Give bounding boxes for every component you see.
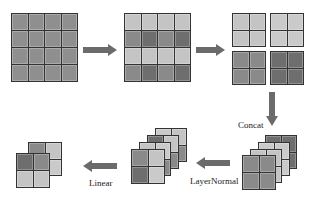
subgrid-top-right [270,13,304,47]
grid-cell [125,48,141,64]
grid-cell [243,173,259,189]
grid-cell [175,48,191,64]
grid-cell [45,31,61,47]
layernormal-label: LayerNormal [190,176,238,186]
grid-cell [250,14,266,30]
concat-label: Concat [238,120,264,130]
grid-cell [45,48,61,64]
grid-cell [12,14,28,30]
grid-cell [175,31,191,47]
grid-cell [158,65,174,81]
grid-cell [271,69,287,85]
grid-cell [142,65,158,81]
right-arrow-icon [196,44,226,56]
grid-cell [175,65,191,81]
grid-cell [142,14,158,30]
grid-cell [125,31,141,47]
grid-cell [149,150,165,166]
grid-cell [29,65,45,81]
grid-cell [233,69,249,85]
grid-cell [250,31,266,47]
grid-cell [29,31,45,47]
grid-cell [125,14,141,30]
grid-cell [233,14,249,30]
grid-cell [34,171,50,187]
grid-cell [132,167,148,183]
right-arrow-icon [83,44,118,56]
stack-layer-1 [242,155,276,190]
grid-cell [12,65,28,81]
grid-cell [271,52,287,68]
grid-cell [17,171,33,187]
grid-cell [142,48,158,64]
grid-cell [62,48,78,64]
subgrid-top-left [232,13,266,47]
grid-cell [158,48,174,64]
grid-cell [45,14,61,30]
grid-cell [62,14,78,30]
grid-cell [12,31,28,47]
left-arrow-icon [196,157,230,169]
grid-cell [132,150,148,166]
grid-cell [45,65,61,81]
grid-cell [62,31,78,47]
left-arrow-icon [83,160,117,172]
grid-cell [158,14,174,30]
grid-cell [271,31,287,47]
subgrid-bottom-left [232,51,266,85]
grid-cell [12,48,28,64]
grid-cell [243,156,259,172]
grid-cell [233,31,249,47]
grid-cell [271,14,287,30]
grid-cell [149,167,165,183]
subgrid-bottom-right [270,51,304,85]
grid-cell [260,156,276,172]
norm-layer-1 [131,149,165,184]
grid-cell [29,48,45,64]
linear-label: Linear [89,178,112,188]
input-grid-4x4 [11,13,78,82]
grid-cell [29,14,45,30]
grid-cell [62,65,78,81]
grid-cell [233,52,249,68]
output-layer-1 [16,153,50,188]
grid-cell [260,173,276,189]
grid-cell [250,52,266,68]
patch-grid-4x4 [124,13,191,82]
grid-cell [125,65,141,81]
grid-cell [288,52,304,68]
grid-cell [158,31,174,47]
down-arrow-icon [266,92,278,127]
grid-cell [142,31,158,47]
grid-cell [288,14,304,30]
grid-cell [288,31,304,47]
grid-cell [175,14,191,30]
grid-cell [34,154,50,170]
grid-cell [288,69,304,85]
grid-cell [250,69,266,85]
grid-cell [17,154,33,170]
